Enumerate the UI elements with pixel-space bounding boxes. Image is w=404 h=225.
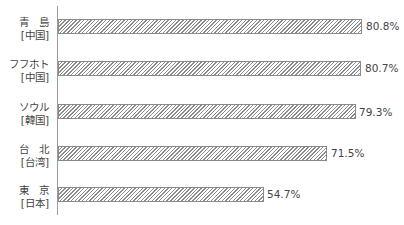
bar-row: フフホト [中国] 80.7% — [0, 61, 404, 101]
category-label: 東 京 [日本] — [0, 184, 49, 210]
country-name: [中国] — [0, 29, 49, 42]
category-label: フフホト [中国] — [0, 58, 49, 84]
category-label: 台 北 [台湾] — [0, 143, 49, 169]
horizontal-bar-chart: 青 島 [中国] 80.8% フフホト [中国] 80.7% ソウル [韓国] … — [0, 0, 404, 225]
city-name: 東 京 — [0, 184, 49, 197]
bar — [58, 187, 264, 202]
city-name: 台 北 — [0, 143, 49, 156]
bar-row: ソウル [韓国] 79.3% — [0, 104, 404, 144]
bar-row: 東 京 [日本] 54.7% — [0, 187, 404, 225]
bar — [58, 104, 356, 119]
category-label: 青 島 [中国] — [0, 16, 49, 42]
value-label: 71.5% — [331, 147, 364, 160]
bar — [58, 146, 327, 161]
city-name: ソウル — [0, 101, 49, 114]
country-name: [韓国] — [0, 114, 49, 127]
country-name: [中国] — [0, 71, 49, 84]
bar — [58, 61, 361, 76]
category-label: ソウル [韓国] — [0, 101, 49, 127]
value-label: 80.8% — [366, 20, 399, 33]
bar — [58, 19, 362, 34]
country-name: [台湾] — [0, 156, 49, 169]
bar-row: 台 北 [台湾] 71.5% — [0, 146, 404, 186]
bar-row: 青 島 [中国] 80.8% — [0, 19, 404, 59]
value-label: 79.3% — [359, 106, 392, 119]
value-label: 54.7% — [267, 188, 300, 201]
country-name: [日本] — [0, 197, 49, 210]
city-name: フフホト — [0, 58, 49, 71]
city-name: 青 島 — [0, 16, 49, 29]
value-label: 80.7% — [365, 62, 398, 75]
